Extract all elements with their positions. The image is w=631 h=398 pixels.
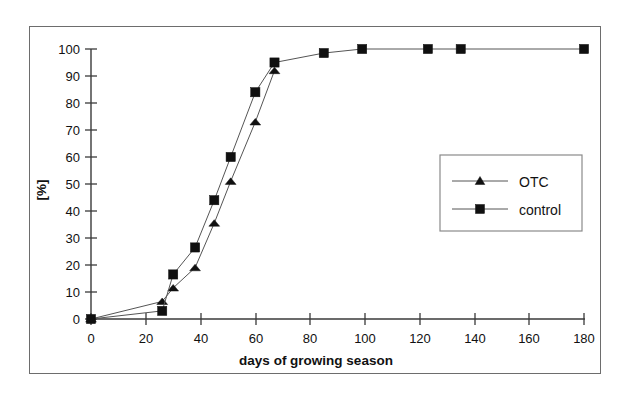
x-tick-label: 180 bbox=[573, 331, 595, 346]
data-point-square bbox=[251, 88, 260, 97]
x-tick-label: 80 bbox=[303, 331, 317, 346]
data-point-square bbox=[158, 306, 167, 315]
y-tick-label: 30 bbox=[66, 231, 80, 246]
y-tick-labels: 100 90 80 70 60 50 40 30 20 10 0 bbox=[58, 42, 80, 327]
x-tick-label: 40 bbox=[194, 331, 208, 346]
legend-label-otc: OTC bbox=[519, 174, 549, 190]
x-tick-labels: 0 20 40 60 80 100 120 140 160 180 bbox=[87, 331, 594, 346]
legend-label-control: control bbox=[519, 202, 561, 218]
data-point-square bbox=[423, 44, 432, 53]
x-tick-label: 60 bbox=[249, 331, 263, 346]
data-point-triangle bbox=[190, 264, 201, 271]
data-point-square bbox=[169, 270, 178, 279]
y-tick-label: 40 bbox=[66, 204, 80, 219]
data-point-triangle bbox=[250, 118, 261, 125]
y-tick-label: 80 bbox=[66, 96, 80, 111]
legend-box bbox=[440, 155, 582, 231]
data-point-square bbox=[86, 314, 95, 323]
y-tick-label: 90 bbox=[66, 69, 80, 84]
y-tick-label: 60 bbox=[66, 150, 80, 165]
data-point-square bbox=[579, 44, 588, 53]
y-tick-label: 20 bbox=[66, 258, 80, 273]
data-point-square bbox=[319, 48, 328, 57]
x-tick-label: 160 bbox=[518, 331, 540, 346]
data-point-square bbox=[270, 58, 279, 67]
data-point-square bbox=[226, 152, 235, 161]
x-tick-label: 20 bbox=[139, 331, 153, 346]
figure: 100 90 80 70 60 50 40 30 20 10 0 bbox=[0, 0, 631, 398]
y-tick-label: 70 bbox=[66, 123, 80, 138]
y-tick-label: 10 bbox=[66, 285, 80, 300]
legend: OTC control bbox=[440, 155, 582, 231]
x-tick-label: 100 bbox=[354, 331, 376, 346]
y-tick-label: 0 bbox=[73, 312, 80, 327]
series-line bbox=[91, 71, 275, 319]
line-chart: 100 90 80 70 60 50 40 30 20 10 0 bbox=[0, 0, 631, 398]
y-tick-label: 50 bbox=[66, 177, 80, 192]
y-axis-title: [%] bbox=[34, 180, 49, 201]
y-tick-label: 100 bbox=[58, 42, 80, 57]
x-tick-label: 140 bbox=[464, 331, 486, 346]
x-tick-label: 0 bbox=[87, 331, 94, 346]
data-point-square bbox=[190, 243, 199, 252]
square-icon bbox=[476, 205, 485, 214]
x-tick-label: 120 bbox=[409, 331, 431, 346]
data-point-square bbox=[358, 44, 367, 53]
data-point-triangle bbox=[209, 220, 220, 227]
x-axis-title: days of growing season bbox=[239, 353, 393, 368]
data-point-square bbox=[210, 196, 219, 205]
data-point-square bbox=[456, 44, 465, 53]
data-point-triangle bbox=[225, 178, 236, 185]
